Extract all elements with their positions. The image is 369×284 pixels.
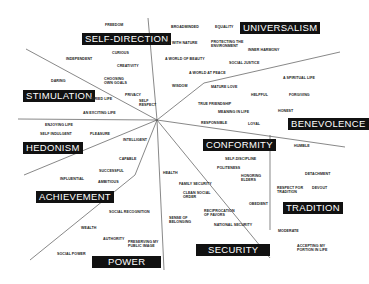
value-label: SELF-DISCIPLINE bbox=[225, 157, 256, 161]
value-label: CHOOSING OWN GOALS bbox=[104, 77, 127, 85]
value-label: FAMILY SECURITY bbox=[179, 182, 212, 186]
category-self-direction: SELF-DIRECTION bbox=[82, 33, 171, 45]
value-label: SELF INDULGENT bbox=[40, 132, 72, 136]
value-label: TRUE FRIENDSHIP bbox=[198, 102, 231, 106]
value-label: RECIPROCATION OF FAVORS bbox=[204, 209, 235, 217]
value-label: A WORLD OF BEAUTY bbox=[165, 57, 205, 61]
value-label: WISDOM bbox=[172, 84, 187, 88]
value-label: OBEDIENT bbox=[249, 202, 268, 206]
category-security: SECURITY bbox=[196, 244, 270, 256]
value-label: INTELLIGENT bbox=[123, 138, 147, 142]
value-label: SENSE OF BELONGING bbox=[169, 216, 191, 224]
value-label: DETACHMENT bbox=[305, 172, 330, 176]
value-label: NATIONAL SECURITY bbox=[214, 223, 252, 227]
value-label: CAPABLE bbox=[119, 157, 136, 161]
category-benevolence: BENEVOLENCE bbox=[288, 118, 369, 130]
value-label: SOCIAL JUSTICE bbox=[229, 61, 259, 65]
value-label: HEALTH bbox=[163, 171, 178, 175]
category-tradition: TRADITION bbox=[283, 202, 343, 214]
value-label: HUMBLE bbox=[294, 144, 310, 148]
value-label: DARING bbox=[51, 79, 65, 83]
value-label: MEANING IN LIFE bbox=[218, 110, 249, 114]
value-label: PROTECTING THE ENVIRONMENT bbox=[211, 40, 243, 48]
value-label: AMBITIOUS bbox=[98, 180, 119, 184]
value-label: HELPFUL bbox=[251, 93, 268, 97]
category-universalism: UNIVERSALISM bbox=[240, 22, 320, 34]
category-conformity: CONFORMITY bbox=[203, 139, 276, 151]
value-label: MATURE LOVE bbox=[211, 85, 237, 89]
value-label: CLEAN SOCIAL ORDER bbox=[183, 191, 211, 199]
value-label: PRESERVING MY PUBLIC IMAGE bbox=[128, 240, 159, 248]
value-label: A SPIRITUAL LIFE bbox=[283, 76, 315, 80]
value-label: PRIVACY bbox=[125, 93, 141, 97]
value-label: ENJOYING LIFE bbox=[45, 123, 73, 127]
value-label: RESPECT FOR TRADITION bbox=[277, 186, 303, 194]
value-label: SELF RESPECT bbox=[139, 99, 156, 107]
value-label: DEVOUT bbox=[312, 186, 327, 190]
category-hedonism: HEDONISM bbox=[23, 142, 83, 154]
value-label: ACCEPTING MY PORTION IN LIFE bbox=[297, 244, 328, 252]
category-stimulation: STIMULATION bbox=[23, 90, 95, 102]
value-label: INNER HARMONY bbox=[248, 48, 279, 52]
boundary-stimulation-hedonism bbox=[18, 119, 157, 120]
value-label: FREEDOM bbox=[105, 23, 123, 27]
value-label: INFLUENTIAL bbox=[60, 177, 84, 181]
value-label: HONEST bbox=[278, 109, 293, 113]
value-label: LOYAL bbox=[248, 122, 260, 126]
value-label: WEALTH bbox=[81, 226, 96, 230]
value-label: RESPONSIBLE bbox=[201, 121, 227, 125]
category-achievement: ACHIEVEMENT bbox=[36, 191, 114, 203]
value-label: CREATIVITY bbox=[117, 64, 139, 68]
value-label: FORGIVING bbox=[289, 93, 310, 97]
value-label: A WORLD AT PEACE bbox=[189, 71, 226, 75]
value-label: AUTHORITY bbox=[103, 237, 124, 241]
value-label: CURIOUS bbox=[112, 51, 129, 55]
value-label: A VARIED LIFE bbox=[86, 97, 112, 101]
value-label: MODERATE bbox=[278, 229, 299, 233]
value-label: SOCIAL RECOGNITION bbox=[109, 210, 150, 214]
value-label: SOCIAL POWER bbox=[57, 252, 86, 256]
value-label: SUCCESSFUL bbox=[99, 169, 124, 173]
value-label: UNITY WITH NATURE bbox=[160, 41, 197, 45]
value-label: HONORING ELDERS bbox=[241, 174, 261, 182]
value-label: POLITENESS bbox=[217, 166, 240, 170]
values-diagram: SELF-DIRECTION UNIVERSALISM STIMULATION … bbox=[0, 0, 369, 284]
value-label: PLEASURE bbox=[90, 132, 110, 136]
category-power: POWER bbox=[92, 256, 161, 268]
value-label: AN EXCITING LIFE bbox=[83, 111, 116, 115]
value-label: BROADMINDED bbox=[171, 25, 199, 29]
value-label: EQUALITY bbox=[215, 25, 234, 29]
value-label: INDEPENDENT bbox=[66, 57, 92, 61]
